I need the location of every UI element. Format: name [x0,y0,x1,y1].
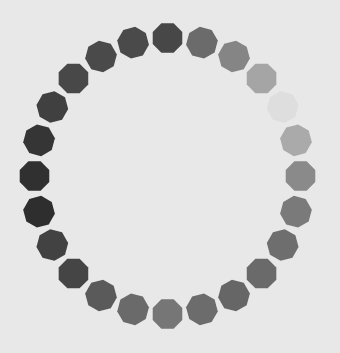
spinner-segment [153,23,183,53]
spinner-segment [247,64,277,94]
spinner-segment [153,299,183,329]
spinner-segment [247,259,277,289]
spinner-segment [59,259,89,289]
loading-spinner [0,0,340,353]
spinner-segment [59,64,89,94]
spinner-segment [20,161,50,191]
spinner-segment [286,161,316,191]
